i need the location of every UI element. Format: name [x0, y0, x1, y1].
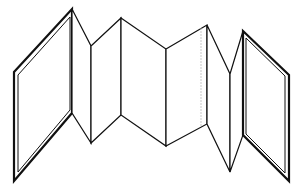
- accordion-book-drawing: [0, 0, 298, 193]
- fold-panel-3: [121, 18, 166, 146]
- fold-panel-2: [91, 18, 121, 143]
- fold-panel-6: [230, 31, 243, 172]
- accordion-book-diagram: accordion-fold book (concertina): [0, 0, 298, 193]
- left-cover-panel: [14, 9, 72, 181]
- fold-panel-5: [207, 25, 230, 172]
- right-cover-panel: [243, 31, 289, 181]
- fold-panel-1: [72, 9, 91, 143]
